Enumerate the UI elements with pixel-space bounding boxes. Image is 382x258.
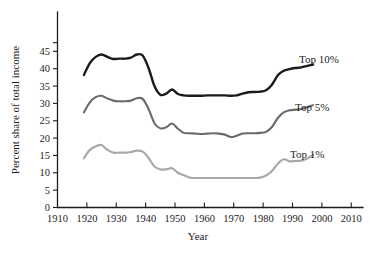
y-tick-label: 25 <box>40 115 51 126</box>
x-tick-label: 1920 <box>76 213 97 224</box>
y-axis-tick-labels: 051015202530354045 <box>40 46 51 213</box>
x-tick-label: 1980 <box>253 213 274 224</box>
series-label-top-5: Top 5% <box>295 101 329 113</box>
chart-figure: 051015202530354045 191019201930194019501… <box>0 0 382 258</box>
y-tick-label: 10 <box>40 167 51 178</box>
x-tick-label: 1940 <box>135 213 156 224</box>
series-line-top-5 <box>84 96 313 137</box>
series-label-top-1: Top 1% <box>290 148 324 160</box>
x-axis-title: Year <box>188 230 209 242</box>
x-axis-ticks <box>87 203 351 208</box>
x-tick-label: 2000 <box>311 213 332 224</box>
y-tick-label: 45 <box>40 46 51 57</box>
x-tick-label: 1960 <box>194 213 215 224</box>
x-tick-label: 2010 <box>341 213 362 224</box>
y-tick-label: 35 <box>40 81 51 92</box>
series-label-top-10: Top 10% <box>299 53 339 65</box>
income-share-line-chart: 051015202530354045 191019201930194019501… <box>0 0 382 258</box>
x-axis-tick-labels: 1910192019301940195019601970198019902000… <box>47 213 362 224</box>
series-line-top-1 <box>84 145 313 178</box>
y-tick-label: 15 <box>40 150 51 161</box>
x-tick-label: 1950 <box>165 213 186 224</box>
y-axis-ticks <box>53 43 58 208</box>
y-tick-label: 5 <box>45 185 50 196</box>
data-series-group <box>84 54 313 178</box>
y-tick-label: 30 <box>40 98 51 109</box>
y-axis-title: Percent share of total income <box>9 46 21 174</box>
y-tick-label: 0 <box>45 202 50 213</box>
series-line-top-10 <box>84 54 313 96</box>
y-tick-label: 40 <box>40 63 51 74</box>
x-tick-label: 1990 <box>282 213 303 224</box>
x-tick-label: 1910 <box>47 213 68 224</box>
y-tick-label: 20 <box>40 133 51 144</box>
x-tick-label: 1930 <box>106 213 127 224</box>
x-tick-label: 1970 <box>223 213 244 224</box>
